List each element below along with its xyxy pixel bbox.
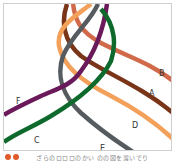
caption-text: ざらのロロロのかい のの図を渡いでり [36,153,149,161]
label-b: B [159,70,165,78]
figure-caption: ざらのロロロのかい のの図を渡いでり [0,153,175,161]
label-f: F [16,98,21,106]
label-a: A [149,90,154,98]
cord-b [73,4,172,81]
caption-marker-icon [5,154,11,160]
label-d: D [132,122,138,130]
label-c: C [34,137,40,145]
cord-d [59,4,172,139]
cords-illustration [4,4,172,151]
label-e: E [100,145,105,151]
knot-diagram-frame: B A D E C F [3,3,172,151]
caption-marker-icon [13,154,19,160]
